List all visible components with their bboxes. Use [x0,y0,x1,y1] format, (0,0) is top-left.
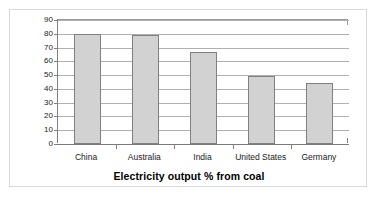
y-axis-tick-label: 10 [44,126,53,134]
x-axis-tick-mark [174,144,175,149]
x-axis-tick-mark [233,144,234,149]
plot-area: 0102030405060708090 [57,19,348,143]
gridline [58,20,349,21]
x-axis-category-label: United States [235,152,286,162]
y-axis-tick-label: 70 [44,44,53,52]
plot-frame-right-bottom [347,138,348,143]
chart-title: Electricity output % from coal [10,170,368,182]
y-axis-tick-label: 80 [44,30,53,38]
chart-figure: 0102030405060708090 ChinaAustraliaIndiaU… [9,9,367,187]
y-axis-tick-mark [54,48,58,49]
y-axis-tick-mark [54,20,58,21]
x-axis-category-label: Germany [301,152,336,162]
bar [132,35,159,144]
bar [74,34,101,144]
gridline [58,34,349,35]
y-axis-tick-label: 90 [44,16,53,24]
x-axis-category-label: China [75,152,97,162]
y-axis-tick-mark [54,61,58,62]
y-axis-tick-mark [54,75,58,76]
x-axis-tick-mark [116,144,117,149]
y-axis-tick-mark [54,103,58,104]
y-axis-tick-label: 40 [44,85,53,93]
gridline [58,48,349,49]
bar [190,52,217,144]
y-axis-tick-mark [54,116,58,117]
x-axis-category-label: India [193,152,211,162]
bar [248,76,275,144]
y-axis-tick-mark [54,130,58,131]
y-axis-tick-label: 50 [44,71,53,79]
y-axis-tick-label: 20 [44,112,53,120]
y-axis-tick-mark [54,34,58,35]
gridline [58,144,349,145]
x-axis-category-label: Australia [128,152,161,162]
y-axis-tick-label: 30 [44,99,53,107]
y-axis-tick-mark [54,144,58,145]
y-axis-tick-label: 0 [49,140,53,148]
x-axis-tick-mark [291,144,292,149]
y-axis-tick-label: 60 [44,57,53,65]
bar [306,83,333,144]
y-axis-tick-mark [54,89,58,90]
